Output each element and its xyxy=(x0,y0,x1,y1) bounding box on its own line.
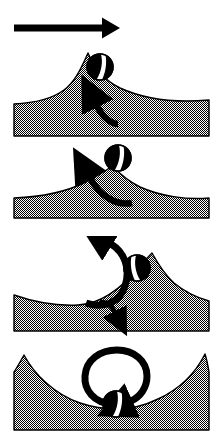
panel-2-ball xyxy=(105,145,131,172)
panel-2[interactable] xyxy=(0,142,218,222)
panel-3-ball xyxy=(124,255,150,282)
direction-arrow-shaft xyxy=(14,25,102,32)
direction-arrow-head xyxy=(102,18,120,39)
motion-direction-arrow xyxy=(14,18,120,39)
panel-4-ball xyxy=(103,391,129,418)
figure-root xyxy=(0,0,218,442)
panel-1[interactable] xyxy=(0,42,218,138)
panel-1-ball xyxy=(87,54,113,81)
panel-3[interactable] xyxy=(0,238,218,334)
ball-terrain-figure xyxy=(0,0,218,442)
panel-4[interactable] xyxy=(0,346,218,434)
